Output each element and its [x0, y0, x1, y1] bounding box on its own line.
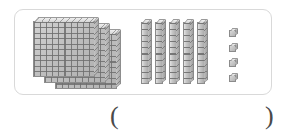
answer-paren-open: ( [110, 101, 119, 131]
tens-group [141, 18, 211, 88]
ten-rod [141, 22, 149, 84]
ten-rod [155, 22, 163, 84]
hundred-flat [33, 21, 95, 77]
unit-cube [229, 75, 236, 82]
base-ten-blocks-panel [14, 9, 272, 95]
ten-rod [197, 22, 205, 84]
unit-cube [229, 45, 236, 52]
hundreds-group [33, 15, 133, 93]
ones-group [225, 30, 253, 88]
answer-paren-close: ) [265, 101, 274, 131]
ten-rod [183, 22, 191, 84]
answer-row: ( ) [0, 101, 285, 137]
ten-rod [169, 22, 177, 84]
unit-cube [229, 30, 236, 37]
answer-input[interactable] [122, 105, 262, 129]
unit-cube [229, 60, 236, 67]
